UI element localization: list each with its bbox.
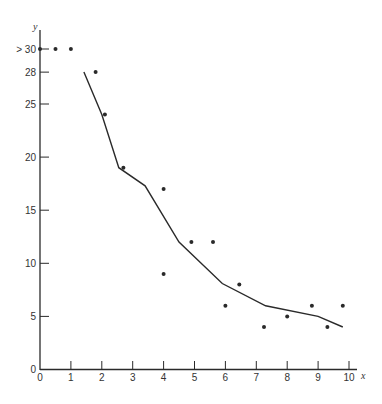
x-tick-label: 9 <box>315 372 321 383</box>
data-point <box>211 240 215 244</box>
y-tick-label: > 30 <box>16 44 36 55</box>
y-tick-label: 25 <box>25 99 37 110</box>
x-ticks: 012345678910 <box>37 361 355 383</box>
x-tick-label: 0 <box>37 372 43 383</box>
scatter-chart: y x 012345678910 051015202528> 30 <box>0 0 382 404</box>
x-tick-label: 6 <box>223 372 229 383</box>
data-point <box>325 325 329 329</box>
data-point <box>103 113 107 117</box>
y-tick-label: 0 <box>30 364 36 375</box>
x-tick-label: 5 <box>192 372 198 383</box>
data-points <box>38 47 345 329</box>
data-point <box>189 240 193 244</box>
data-point <box>54 47 58 51</box>
axes: y x <box>32 21 366 381</box>
data-point <box>38 47 42 51</box>
data-point <box>69 47 73 51</box>
x-tick-label: 1 <box>68 372 74 383</box>
x-tick-label: 8 <box>284 372 290 383</box>
fitted-curve <box>84 72 343 327</box>
data-point <box>94 70 98 74</box>
x-tick-label: 4 <box>161 372 167 383</box>
data-point <box>262 325 266 329</box>
data-point <box>162 187 166 191</box>
x-tick-label: 2 <box>99 372 105 383</box>
x-tick-label: 3 <box>130 372 136 383</box>
x-axis-label: x <box>360 370 366 381</box>
y-ticks: 051015202528> 30 <box>16 44 49 376</box>
x-tick-label: 7 <box>254 372 260 383</box>
data-point <box>341 304 345 308</box>
y-axis-label: y <box>32 21 38 32</box>
curve-line <box>84 72 343 327</box>
data-point <box>162 272 166 276</box>
data-point <box>310 304 314 308</box>
y-tick-label: 15 <box>25 205 37 216</box>
data-point <box>237 283 241 287</box>
x-tick-label: 10 <box>343 372 355 383</box>
y-tick-label: 28 <box>25 67 37 78</box>
data-point <box>285 314 289 318</box>
data-point <box>223 304 227 308</box>
data-point <box>121 166 125 170</box>
y-tick-label: 20 <box>25 152 37 163</box>
y-tick-label: 5 <box>30 311 36 322</box>
y-tick-label: 10 <box>25 258 37 269</box>
